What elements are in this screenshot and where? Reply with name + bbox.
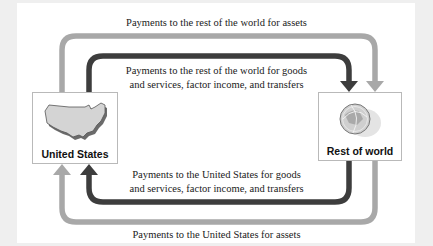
inner-bottom-flow-arrow — [89, 160, 349, 202]
rest-of-world-label: Rest of world — [319, 145, 401, 157]
inner-top-flow-label-line1: Payments to the rest of the world for go… — [0, 64, 433, 77]
inner-bottom-flow-label-line2: and services, factor income, and transfe… — [0, 182, 433, 195]
rest-of-world-node: Rest of world — [318, 92, 402, 161]
united-states-node: United States — [32, 92, 118, 164]
outer-top-flow-label: Payments to the rest of the world for as… — [0, 16, 433, 29]
inner-top-flow-label-line2: and services, factor income, and transfe… — [0, 78, 433, 91]
inner-bottom-flow-label-line1: Payments to the United States for goods — [0, 168, 433, 181]
outer-bottom-flow-label: Payments to the United States for assets — [0, 228, 433, 241]
us-map-icon — [39, 99, 111, 143]
united-states-label: United States — [33, 148, 117, 160]
globe-icon — [335, 99, 387, 143]
